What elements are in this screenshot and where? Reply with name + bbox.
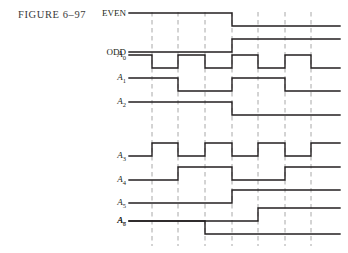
signal-label-subscript: 2 [123, 101, 126, 108]
signal-label-subscript: 7 [123, 220, 126, 227]
waveform-a7 [129, 221, 340, 234]
waveform-a4 [129, 167, 340, 180]
waveform-a0 [129, 55, 340, 68]
signal-label-a5: A5 [117, 197, 126, 209]
waveform-trace-group [129, 13, 340, 234]
timing-diagram [0, 0, 348, 253]
signal-label-subscript: 0 [123, 54, 126, 61]
signal-label-a0: A0 [117, 49, 126, 61]
waveform-a3 [129, 143, 340, 156]
signal-label-a4: A4 [117, 174, 126, 186]
waveform-a5 [129, 190, 340, 203]
waveform-a2 [129, 102, 340, 115]
waveform-odd [129, 39, 340, 52]
signal-label-subscript: 1 [123, 77, 126, 84]
signal-label-even: EVEN [102, 8, 126, 18]
signal-label-a3: A3 [117, 150, 126, 162]
signal-label-subscript: 4 [123, 179, 126, 186]
waveform-even [129, 13, 340, 26]
signal-label-a1: A1 [117, 72, 126, 84]
signal-label-subscript: 5 [123, 202, 126, 209]
signal-label-subscript: 3 [123, 155, 126, 162]
waveform-a1 [129, 78, 340, 91]
signal-label-a7: A7 [117, 215, 126, 227]
signal-label-a2: A2 [117, 96, 126, 108]
waveform-a6 [129, 208, 340, 221]
